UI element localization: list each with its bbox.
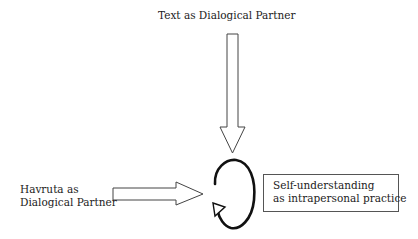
self-understanding-box: Self-understanding as intrapersonal prac… — [263, 174, 399, 212]
right-arrow-icon — [113, 182, 203, 205]
havruta-dialogical-partner-label: Havruta as Dialogical Partner — [20, 183, 117, 209]
self-understanding-line-1: Self-understanding — [273, 179, 398, 192]
down-arrow-icon — [220, 34, 245, 153]
text-dialogical-partner-label: Text as Dialogical Partner — [158, 9, 296, 22]
havruta-label-line-1: Havruta as — [20, 183, 117, 196]
havruta-label-line-2: Dialogical Partner — [20, 196, 117, 209]
self-understanding-line-2: as intrapersonal practice — [273, 192, 398, 205]
cycle-arrow-icon — [215, 160, 254, 228]
